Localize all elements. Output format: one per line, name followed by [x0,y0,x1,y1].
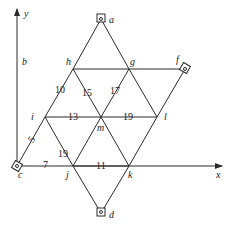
edge-l-k [129,117,157,166]
edge-m-k [101,117,129,166]
edge-label-ij: 19 [58,148,68,159]
edge-label-im: 13 [68,111,78,122]
node-label-l: l [164,111,167,122]
edges [17,19,185,213]
edge-label-ml: 19 [123,111,133,122]
edge-a-h [73,19,101,69]
x-axis-label: x [215,169,221,180]
edge-label-hm: 15 [82,87,92,98]
edge-label-jk: 11 [96,160,106,171]
node-label-f: f [176,54,180,65]
node-label-a: a [109,14,114,25]
node-label-m: m [97,122,104,133]
truss-diagram: y x b a h g f i m l c j k d 10 [0,0,232,229]
edge-label-ic: 5 [25,134,37,144]
node-label-h: h [66,56,71,67]
node-label-k: k [128,169,133,180]
edge-g-l [129,69,157,117]
node-label-d: d [109,209,115,220]
b-label: b [22,56,27,67]
node-label-c: c [18,169,23,180]
node-label-i: i [31,111,34,122]
edge-a-g [101,19,129,69]
edge-label-gm: 17 [110,85,120,96]
node-label-g: g [130,56,135,67]
edge-j-d [73,166,101,213]
edge-k-d [101,166,129,213]
edge-f-l [157,69,185,117]
edge-label-hi: 10 [55,84,65,95]
support-d-icon [97,208,105,216]
edge-label-cj: 7 [43,159,48,170]
y-axis-label: y [23,8,29,19]
node-label-j: j [64,169,69,180]
